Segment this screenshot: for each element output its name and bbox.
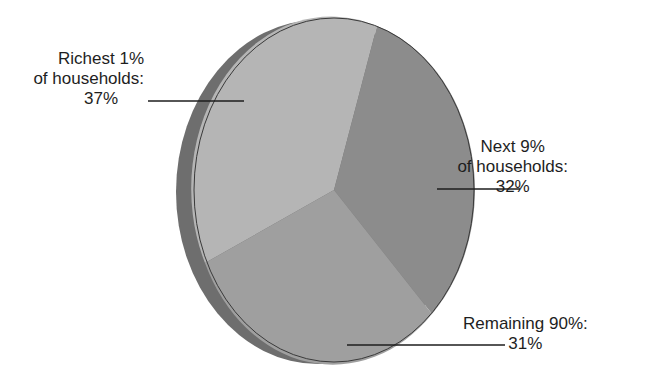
label-remaining: Remaining 90%: 31% — [463, 314, 588, 354]
label-richest-line1: Richest 1% — [33, 49, 144, 69]
label-remaining-line1: Remaining 90%: — [463, 314, 588, 334]
label-richest-line2: of households: — [33, 69, 144, 89]
label-next: Next 9% of households: 32% — [457, 137, 568, 197]
label-richest: Richest 1% of households: 37% — [33, 49, 144, 109]
label-next-line3: 32% — [457, 177, 568, 197]
pie-face — [191, 17, 475, 365]
label-next-line1: Next 9% — [457, 137, 568, 157]
label-remaining-line2: 31% — [463, 334, 588, 354]
label-next-line2: of households: — [457, 157, 568, 177]
label-richest-line3: 37% — [33, 89, 118, 109]
